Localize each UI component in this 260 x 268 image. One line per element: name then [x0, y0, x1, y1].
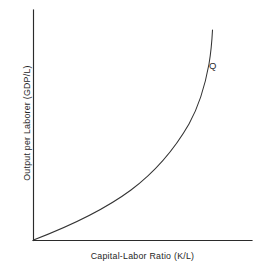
curve-label-q: Q: [209, 60, 217, 71]
production-function-curve: [34, 30, 213, 240]
y-axis-label: Output per Laborer (GDP/L): [19, 8, 35, 238]
chart-canvas: [0, 0, 260, 268]
series-group: [34, 30, 213, 240]
x-axis-label: Capital-Labor Ratio (K/L): [33, 251, 252, 261]
production-function-figure: Output per Laborer (GDP/L) Capital-Labor…: [0, 0, 260, 268]
axes-group: [33, 10, 252, 241]
